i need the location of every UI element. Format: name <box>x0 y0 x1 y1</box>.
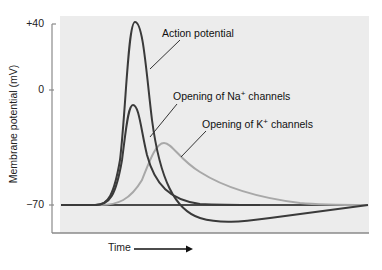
y-axis <box>49 24 56 233</box>
chart-svg <box>0 0 382 270</box>
time-arrow-icon <box>134 246 193 253</box>
k-channels-curve <box>61 143 368 205</box>
y-tick-0: 0 <box>14 83 44 95</box>
y-axis-label: Membrane potential (mV) <box>7 49 19 199</box>
k-label-text: Opening of K <box>202 118 263 130</box>
na-channels-label: Opening of Na+ channels <box>173 90 290 102</box>
y-tick-plus-40: +40 <box>14 17 44 29</box>
k-label-suffix: channels <box>268 118 313 130</box>
na-leader-line <box>150 104 177 137</box>
ap-leader-line <box>150 40 180 69</box>
k-channels-label: Opening of K+ channels <box>202 118 313 130</box>
action-potential-label: Action potential <box>162 27 234 39</box>
na-label-suffix: channels <box>245 90 290 102</box>
x-axis-label: Time <box>108 241 131 253</box>
na-label-text: Opening of Na <box>173 90 241 102</box>
y-tick-minus-70: −70 <box>14 198 44 210</box>
k-leader-line <box>181 131 206 157</box>
